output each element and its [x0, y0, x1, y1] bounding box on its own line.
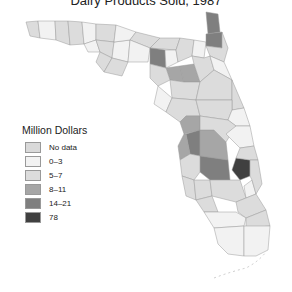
county-region	[210, 180, 246, 202]
county-region	[206, 32, 222, 48]
legend-swatch	[25, 184, 41, 195]
county-region	[68, 21, 84, 45]
florida-keys	[214, 252, 266, 278]
legend-item-0-3: 0–3	[22, 154, 87, 168]
legend-label: 8–11	[49, 185, 66, 194]
legend-swatch	[25, 212, 41, 223]
county-region	[192, 40, 206, 58]
county-region	[26, 21, 40, 38]
legend-label: 78	[49, 213, 58, 222]
county-region	[236, 146, 258, 160]
county-region	[176, 38, 194, 62]
county-region	[232, 158, 250, 180]
county-region	[244, 226, 270, 256]
county-region	[206, 12, 220, 34]
legend-label: 5–7	[49, 171, 62, 180]
county-region	[96, 24, 116, 42]
legend-item-78: 78	[22, 210, 87, 224]
county-region	[214, 226, 244, 256]
legend-swatch	[25, 142, 41, 153]
legend-item-8-11: 8–11	[22, 182, 87, 196]
legend-item-5-7: 5–7	[22, 168, 87, 182]
county-region	[232, 80, 244, 110]
legend-swatch	[25, 170, 41, 181]
legend-title: Million Dollars	[22, 124, 87, 136]
legend-label: 14–21	[49, 199, 71, 208]
legend-label: 0–3	[49, 157, 62, 166]
legend-swatch	[25, 156, 41, 167]
county-region	[38, 21, 56, 40]
county-region	[200, 156, 230, 180]
legend-item-14-21: 14–21	[22, 196, 87, 210]
county-region	[204, 212, 246, 228]
county-region	[165, 50, 178, 68]
county-region	[170, 80, 200, 100]
county-region	[55, 21, 70, 45]
legend-label: No data	[49, 143, 77, 152]
legend-item-no-data: No data	[22, 140, 87, 154]
legend-swatch	[25, 198, 41, 209]
map-legend: Million Dollars No data 0–3 5–7 8–11 14–…	[22, 124, 87, 224]
